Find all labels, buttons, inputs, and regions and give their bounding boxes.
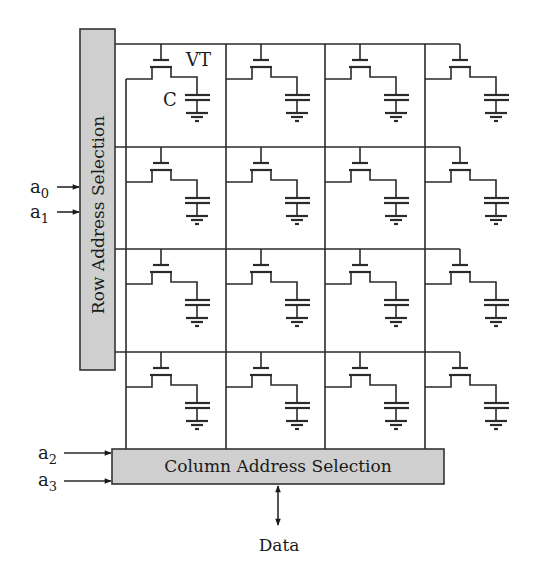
source-wire: [126, 170, 152, 182]
drain-wire: [271, 375, 297, 403]
source-wire: [425, 170, 451, 182]
source-wire: [126, 67, 152, 79]
data-label: Data: [259, 535, 300, 555]
source-wire: [425, 67, 451, 79]
drain-wire: [470, 375, 496, 403]
source-wire: [226, 170, 252, 182]
capacitor-label-c: C: [163, 89, 177, 110]
source-wire: [126, 272, 152, 284]
source-wire: [226, 272, 252, 284]
input-a2-label: a2: [38, 442, 57, 467]
source-wire: [325, 272, 351, 284]
dram-array-diagram: Row Address Selection a0 a1 Column Addre…: [0, 0, 536, 572]
input-a3-label: a3: [38, 469, 57, 494]
drain-wire: [370, 272, 396, 300]
drain-wire: [370, 67, 396, 95]
input-a0-label: a0: [30, 176, 49, 201]
drain-wire: [271, 170, 297, 198]
drain-wire: [470, 272, 496, 300]
column-decoder-label: Column Address Selection: [164, 456, 391, 476]
row-address-inputs: a0 a1: [30, 176, 79, 226]
row-address-selection: Row Address Selection: [80, 29, 115, 370]
drain-wire: [370, 375, 396, 403]
source-wire: [425, 272, 451, 284]
source-wire: [325, 375, 351, 387]
source-wire: [325, 67, 351, 79]
drain-wire: [271, 67, 297, 95]
drain-wire: [171, 375, 197, 403]
drain-wire: [370, 170, 396, 198]
column-address-inputs: a2 a3: [38, 442, 111, 494]
source-wire: [226, 375, 252, 387]
data-port: Data: [259, 486, 300, 555]
input-a1-label: a1: [30, 201, 49, 226]
drain-wire: [271, 272, 297, 300]
drain-wire: [470, 170, 496, 198]
source-wire: [126, 375, 152, 387]
column-address-selection: Column Address Selection: [112, 449, 444, 484]
source-wire: [425, 375, 451, 387]
drain-wire: [470, 67, 496, 95]
transistor-label-vt: VT: [185, 49, 211, 70]
drain-wire: [171, 170, 197, 198]
source-wire: [325, 170, 351, 182]
row-decoder-label: Row Address Selection: [88, 116, 108, 314]
drain-wire: [171, 272, 197, 300]
source-wire: [226, 67, 252, 79]
